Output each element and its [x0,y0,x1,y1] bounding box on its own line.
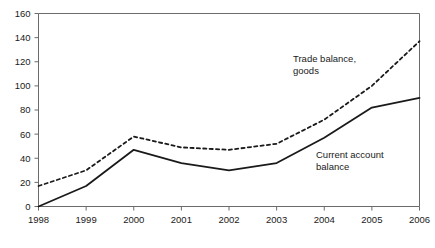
x-tick-label: 2006 [409,214,430,225]
y-tick-label: 120 [15,56,31,67]
y-tick-label: 0 [25,201,30,212]
y-tick-label: 100 [15,80,31,91]
chart-container: 020406080100120140160 199819992000200120… [0,0,435,248]
annotation-current-account-balance: Current accountbalance [316,149,384,172]
data-series-group [39,41,420,206]
chart-frame [39,14,420,207]
x-axis: 199819992000200120022003200420052006 [28,207,430,225]
annotation-line: goods [293,65,319,76]
y-tick-label: 40 [20,153,31,164]
y-tick-label: 160 [15,8,31,19]
y-tick-label: 20 [20,177,31,188]
annotation-line: balance [316,161,349,172]
x-tick-label: 2000 [123,214,144,225]
x-tick-label: 2005 [361,214,382,225]
chart-annotations: Trade balance,goodsCurrent accountbalanc… [293,53,384,172]
x-tick-label: 2002 [218,214,239,225]
annotation-line: Trade balance, [293,53,356,64]
y-axis: 020406080100120140160 [15,8,39,212]
annotation-line: Current account [316,149,384,160]
annotation-trade-balance-goods: Trade balance,goods [293,53,356,76]
x-tick-label: 1998 [28,214,49,225]
line-chart: 020406080100120140160 199819992000200120… [0,0,435,248]
x-tick-label: 2001 [171,214,192,225]
x-tick-label: 2003 [266,214,287,225]
y-tick-label: 60 [20,129,31,140]
x-tick-label: 1999 [76,214,97,225]
y-tick-label: 80 [20,104,31,115]
y-tick-label: 140 [15,32,31,43]
x-tick-label: 2004 [314,214,335,225]
